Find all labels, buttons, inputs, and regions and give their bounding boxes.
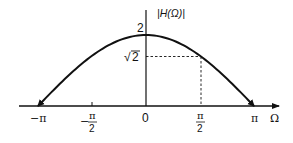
x-tick-label-neg-pi: −π [30,112,46,125]
neg-half-pi-denominator: 2 [89,123,95,134]
half-pi-numerator: π [197,110,204,121]
y-axis-label: |H(Ω)| [157,7,185,19]
sqrt-radicand: 2 [132,50,139,64]
y-tick-label-2: 2 [137,21,144,35]
neg-half-pi-minus: − [80,115,89,128]
frequency-response-plot: |H(Ω)| 2 √ 2 −π − π 2 0 π 2 π Ω [0,0,293,143]
y-tick-label-sqrt2: √ 2 [124,50,140,64]
x-tick-label-neg-half-pi: − π 2 [80,110,97,134]
neg-half-pi-numerator: π [89,110,96,121]
x-tick-label-half-pi: π 2 [196,110,205,134]
x-tick-label-pi: π [251,112,258,125]
x-axis-label: Ω [270,112,279,125]
x-tick-label-zero: 0 [142,111,149,125]
sqrt-radical: √ [124,50,131,64]
half-pi-denominator: 2 [197,123,203,134]
